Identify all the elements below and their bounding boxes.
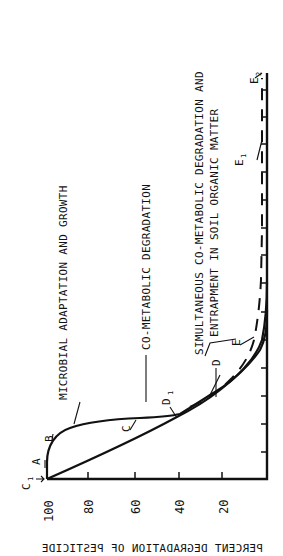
svg-text:A: A bbox=[30, 458, 43, 465]
svg-text:1: 1 bbox=[167, 391, 175, 395]
svg-text:1: 1 bbox=[27, 477, 35, 481]
curve-cometabolic bbox=[47, 310, 267, 479]
degradation-chart: MICROBIAL ADAPTATION AND GROWTH CO-METAB… bbox=[0, 0, 283, 556]
label-simultaneous-2: ENTRAPMENT IN SOIL ORGANIC MATTER bbox=[208, 108, 221, 337]
tick-20: 20 bbox=[217, 500, 231, 514]
label-microbial: MICROBIAL ADAPTATION AND GROWTH bbox=[57, 185, 70, 400]
chart-axes bbox=[47, 73, 267, 479]
svg-text:C: C bbox=[20, 483, 33, 490]
tick-80: 80 bbox=[82, 500, 96, 514]
curve-microbial-adaptation bbox=[47, 282, 267, 479]
label-simultaneous-1: SIMULTANEOUS CO-METABOLIC DEGRADATION AN… bbox=[193, 71, 206, 355]
tick-100: 100 bbox=[42, 500, 56, 522]
svg-text:E: E bbox=[248, 77, 261, 84]
svg-text:D: D bbox=[160, 398, 173, 405]
svg-text:D: D bbox=[210, 359, 223, 366]
tick-60: 60 bbox=[129, 500, 143, 514]
tick-40: 40 bbox=[173, 500, 187, 514]
svg-text:E: E bbox=[233, 159, 246, 166]
svg-text:B: B bbox=[43, 435, 56, 442]
label-cometabolic: CO-METABOLIC DEGRADATION bbox=[140, 184, 153, 350]
annotation-pointers bbox=[74, 140, 262, 424]
percent-axis-label: PERCENT DEGRADATION OF PESTICIDE bbox=[41, 542, 263, 555]
svg-text:1: 1 bbox=[240, 154, 248, 158]
svg-text:E: E bbox=[230, 339, 243, 346]
